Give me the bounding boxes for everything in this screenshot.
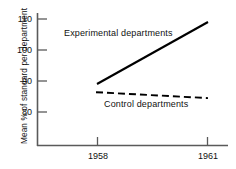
chart-canvas <box>0 0 236 169</box>
y-tick-label-90: 90 <box>8 76 32 86</box>
y-tick-110: 110 <box>8 14 32 24</box>
series-label-experimental-departments: Experimental departments <box>64 28 173 38</box>
y-tick-90: 90 <box>8 76 32 86</box>
y-tick-100: 100 <box>8 45 32 55</box>
x-tick-label-1958: 1958 <box>76 151 120 161</box>
y-tick-80: 80 <box>8 107 32 117</box>
y-tick-label-100: 100 <box>8 45 32 55</box>
x-tick-label-1961: 1961 <box>186 151 230 161</box>
chart-figure: Mean % of standard per department 110 10… <box>0 0 236 169</box>
series-label-control-departments: Control departments <box>104 99 188 109</box>
x-tick-marks <box>98 137 208 146</box>
y-tick-marks <box>38 19 47 112</box>
series-line-control-departments <box>96 92 208 98</box>
y-tick-label-80: 80 <box>8 107 32 117</box>
y-tick-label-110: 110 <box>8 14 32 24</box>
